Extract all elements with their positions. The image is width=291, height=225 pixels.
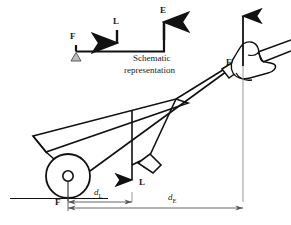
main-load-label: L — [139, 178, 145, 187]
schematic-caption-line2: representation — [124, 66, 175, 75]
arm-shaft-bottom — [263, 51, 291, 62]
figure-canvas: F L E Schematic representation E L F dL … — [0, 0, 291, 225]
wheelbarrow-tray-icon — [33, 99, 188, 152]
wheelbarrow-group — [10, 16, 291, 211]
schematic-fulcrum-label: F — [70, 32, 76, 41]
main-effort-label: E — [226, 58, 232, 67]
schematic-effort-label: E — [160, 6, 166, 15]
dimension-label-load: dL — [94, 188, 102, 199]
triangle-fulcrum-icon — [71, 53, 81, 62]
dimension-label-effort: dE — [168, 193, 176, 204]
dimension-effort-subscript: E — [173, 197, 177, 204]
wheel-hub-icon — [63, 171, 73, 181]
main-fulcrum-label: F — [55, 198, 61, 207]
support-leg-icon — [138, 154, 161, 173]
diagram-svg — [0, 0, 291, 225]
tray-left-fold — [33, 136, 47, 153]
dimension-load-subscript: L — [99, 192, 103, 199]
schematic-load-label: L — [113, 17, 119, 26]
arm-shaft-top — [258, 40, 291, 52]
handle-shaft-lower — [90, 66, 234, 171]
schematic-caption-line1: Schematic — [133, 54, 171, 63]
